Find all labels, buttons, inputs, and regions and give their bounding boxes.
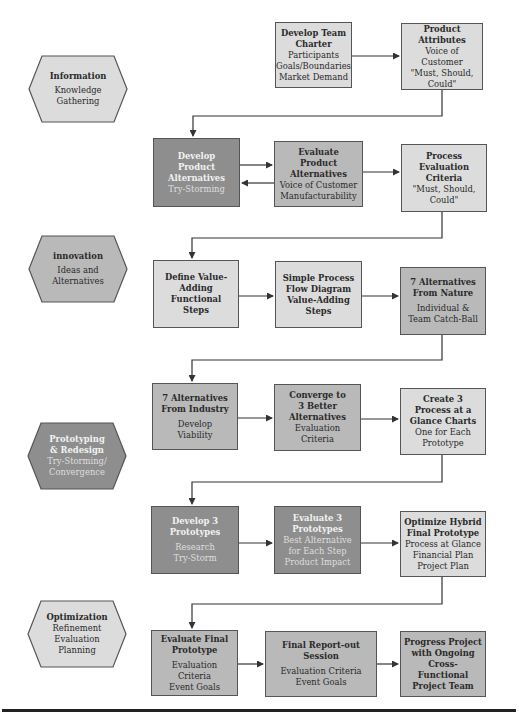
step-title: Converge to (289, 390, 346, 401)
step-title: with Ongoing (411, 648, 474, 659)
step-detail: Financial Plan (413, 550, 474, 561)
phase-detail: Planning (58, 645, 96, 656)
step-detail: Try-Storm (173, 553, 216, 564)
step-title: Evaluate Final (161, 634, 228, 645)
step-title: Session (303, 651, 339, 662)
step-detail: Develop (178, 419, 212, 430)
step-title: Steps (183, 305, 209, 316)
step-title: Prototypes (292, 524, 342, 535)
step-detail: Product Impact (285, 557, 351, 568)
step-detail: Viability (177, 430, 212, 441)
step-develop-3-prototypes: Develop 3 Prototypes Research Try-Storm (151, 506, 239, 574)
phase-detail: Alternatives (52, 276, 103, 287)
bottom-rule-divider (2, 709, 516, 712)
step-develop-team-charter: Develop Team Charter Participants Goals/… (275, 22, 352, 88)
step-title: Value-Adding (287, 295, 350, 306)
step-title: Adding (179, 283, 212, 294)
phase-detail: Convergence (49, 467, 105, 478)
phase-detail: Try-Storming/ (47, 456, 107, 467)
step-alternatives-from-nature: 7 Alternatives From Nature Individual & … (400, 267, 486, 335)
step-detail: Evaluation Criteria (280, 666, 361, 677)
step-title: 7 Alternatives (162, 393, 228, 404)
step-detail: Participants (288, 50, 339, 61)
step-progress-project: Progress Project with Ongoing Cross-Func… (400, 631, 486, 697)
step-process-evaluation-criteria: Process Evaluation Criteria "Must, Shoul… (401, 144, 487, 212)
step-detail: Goals/Boundaries (276, 61, 351, 72)
phase-innovation-hexagon: innovation Ideas and Alternatives (28, 235, 128, 303)
step-evaluate-3-prototypes: Evaluate 3 Prototypes Best Alternative f… (274, 506, 361, 574)
step-optimize-hybrid-prototype: Optimize Hybrid Final Prototype Process … (400, 511, 486, 577)
step-title: Final Report-out (282, 640, 360, 651)
step-title: Develop 3 (172, 516, 218, 527)
step-title: Functional (171, 294, 221, 305)
step-title: Cross-Functional (404, 659, 482, 681)
step-detail: Could" (428, 79, 457, 90)
step-detail: Evaluation Criteria (155, 660, 234, 682)
step-title: 3 Better (298, 401, 337, 412)
phase-detail: Gathering (57, 96, 100, 107)
phase-detail: Knowledge (54, 85, 101, 96)
step-detail: Criteria (301, 434, 334, 445)
step-alternatives-from-industry: 7 Alternatives From Industry Develop Via… (152, 383, 238, 450)
step-title: From Industry (161, 404, 228, 415)
step-title: Develop (178, 151, 215, 162)
step-detail: for Each Step (288, 546, 346, 557)
step-detail: Voice of Customer (280, 180, 358, 191)
step-simple-process-flow-diagram: Simple Process Flow Diagram Value-Adding… (275, 261, 362, 328)
step-detail: "Must, Should, (410, 68, 473, 79)
step-title: Project Team (412, 681, 473, 692)
step-title: Create 3 (423, 394, 463, 405)
step-title: Process at a (415, 405, 472, 416)
step-title: Steps (306, 306, 332, 317)
step-title: Final Prototype (407, 528, 479, 539)
step-title: Prototype (172, 645, 218, 656)
step-detail: Best Alternative (283, 535, 352, 546)
step-detail: Event Goals (169, 682, 220, 693)
step-title: Prototypes (170, 527, 220, 538)
step-detail: Manufacturability (280, 191, 356, 202)
step-detail: Voice of Customer (405, 46, 479, 68)
step-title: Product (178, 162, 215, 173)
step-title: Develop Team (281, 28, 346, 39)
step-detail: Try-Storming (168, 184, 225, 195)
step-detail: One for Each (415, 427, 471, 438)
phase-title-line2: & Redesign (50, 445, 104, 456)
step-create-3-process-charts: Create 3 Process at a Glance Charts One … (400, 388, 486, 455)
step-detail: Individual & (417, 303, 470, 314)
step-detail: Event Goals (296, 677, 347, 688)
step-title: Evaluate (298, 147, 339, 158)
step-title: Alternatives (168, 173, 225, 184)
step-title: Product (300, 158, 337, 169)
step-title: Evaluate 3 (293, 513, 342, 524)
step-evaluate-product-alternatives: Evaluate Product Alternatives Voice of C… (274, 141, 363, 207)
phase-prototyping-hexagon: Prototyping & Redesign Try-Storming/ Con… (27, 422, 127, 490)
phase-title: Information (50, 71, 107, 82)
step-detail: Evaluation (295, 423, 340, 434)
phase-title: Prototyping (49, 434, 104, 445)
step-title: Charter (295, 39, 331, 50)
step-detail: "Must, Should, (412, 184, 475, 195)
phase-optimization-hexagon: Optimization Refinement Evaluation Plann… (27, 600, 127, 668)
step-title: Process (426, 151, 462, 162)
step-detail: Team Catch-Ball (408, 314, 478, 325)
step-evaluate-final-prototype: Evaluate Final Prototype Evaluation Crit… (151, 630, 238, 696)
step-title: Alternatives (289, 412, 346, 423)
step-title: Product (423, 24, 460, 35)
step-title: From Nature (413, 288, 473, 299)
step-title: Evaluation (419, 162, 469, 173)
phase-detail: Refinement (53, 623, 102, 634)
phase-information-hexagon: Information Knowledge Gathering (28, 55, 128, 123)
step-define-value-adding-steps: Define Value- Adding Functional Steps (153, 260, 239, 328)
step-title: Simple Process (283, 273, 355, 284)
step-detail: Project Plan (417, 561, 469, 572)
phase-detail: Evaluation (54, 634, 99, 645)
step-detail: Process at Glance (405, 539, 481, 550)
step-detail: Could" (430, 195, 459, 206)
step-title: Glance Charts (410, 416, 476, 427)
step-title: Progress Project (404, 637, 482, 648)
step-detail: Research (175, 542, 215, 553)
step-detail: Market Demand (279, 72, 348, 83)
step-title: Attributes (418, 35, 466, 46)
step-title: Alternatives (290, 169, 347, 180)
step-develop-product-alternatives: Develop Product Alternatives Try-Stormin… (153, 138, 240, 207)
